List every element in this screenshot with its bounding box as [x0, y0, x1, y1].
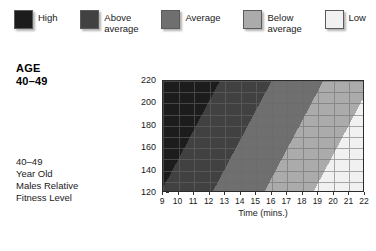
fitness-level-legend: High Above average Average Below average… — [14, 10, 366, 34]
age-group-caption: 40–49 Year Old Males Relative Fitness Le… — [16, 156, 78, 204]
y-tick-label: 200 — [141, 98, 156, 107]
age-group-heading: AGE 40–49 — [16, 62, 48, 88]
y-tick-label: 120 — [141, 188, 156, 197]
x-tick-label: 15 — [250, 197, 259, 206]
x-tick-mark — [317, 192, 318, 195]
legend-swatch-low — [325, 10, 344, 29]
legend-label-above-average: Above average — [104, 10, 138, 34]
legend-item-above-average: Above average — [80, 10, 138, 34]
legend-swatch-average — [161, 10, 180, 29]
x-tick-label: 20 — [328, 197, 337, 206]
y-axis-ticks: 220200180160140120 — [130, 80, 156, 192]
legend-swatch-high — [14, 10, 33, 29]
legend-item-average: Average — [161, 10, 220, 29]
legend-label-below-average: Below average — [267, 10, 301, 34]
x-tick-mark — [240, 192, 241, 195]
y-tick-label: 160 — [141, 143, 156, 152]
legend-label-average: Average — [185, 10, 220, 24]
x-tick-mark — [255, 192, 256, 195]
x-tick-mark — [364, 192, 365, 195]
x-tick-mark — [286, 192, 287, 195]
x-tick-mark — [348, 192, 349, 195]
chart-plot-area — [162, 80, 364, 192]
x-tick-mark — [209, 192, 210, 195]
x-tick-mark — [333, 192, 334, 195]
x-tick-label: 10 — [173, 197, 182, 206]
y-tick-label: 220 — [141, 76, 156, 85]
x-tick-label: 18 — [297, 197, 306, 206]
x-tick-label: 22 — [359, 197, 368, 206]
x-tick-label: 16 — [266, 197, 275, 206]
x-tick-label: 14 — [235, 197, 244, 206]
x-tick-mark — [271, 192, 272, 195]
legend-label-low: Low — [349, 10, 366, 24]
fitness-level-chart: Heart Rate (beats/min) 22020018016014012… — [122, 80, 368, 240]
legend-swatch-above-average — [80, 10, 99, 29]
legend-label-high: High — [38, 10, 58, 24]
y-tick-label: 140 — [141, 165, 156, 174]
x-tick-label: 12 — [204, 197, 213, 206]
x-tick-label: 11 — [189, 197, 198, 206]
x-tick-mark — [193, 192, 194, 195]
x-tick-label: 13 — [219, 197, 228, 206]
x-tick-mark — [162, 192, 163, 195]
x-tick-label: 19 — [313, 197, 322, 206]
x-tick-mark — [302, 192, 303, 195]
legend-item-low: Low — [325, 10, 366, 29]
legend-swatch-below-average — [243, 10, 262, 29]
x-axis-title: Time (mins.) — [162, 208, 364, 218]
x-tick-mark — [224, 192, 225, 195]
fitness-level-bands — [163, 81, 363, 191]
x-tick-label: 21 — [344, 197, 353, 206]
legend-item-high: High — [14, 10, 58, 29]
legend-item-below-average: Below average — [243, 10, 301, 34]
x-tick-label: 9 — [160, 197, 165, 206]
x-tick-label: 17 — [282, 197, 291, 206]
x-tick-mark — [178, 192, 179, 195]
y-tick-label: 180 — [141, 120, 156, 129]
